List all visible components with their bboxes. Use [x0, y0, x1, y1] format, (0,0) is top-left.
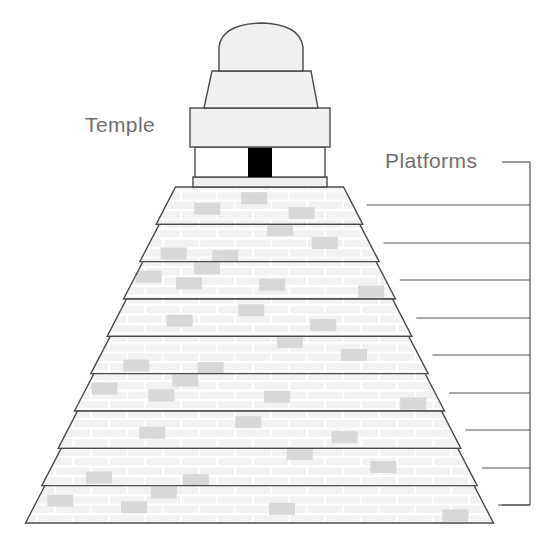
accent-brick	[277, 336, 303, 348]
accent-brick	[341, 349, 367, 361]
accent-brick	[312, 237, 338, 249]
temple-doorway	[248, 148, 272, 177]
platform-step	[107, 299, 412, 336]
platform-group	[26, 187, 494, 523]
accent-brick	[176, 277, 202, 289]
accent-brick	[332, 431, 358, 443]
accent-brick	[442, 510, 468, 522]
accent-brick	[198, 362, 224, 374]
accent-brick	[358, 286, 384, 298]
accent-brick	[267, 224, 293, 236]
accent-brick	[269, 503, 295, 515]
accent-brick	[264, 391, 290, 403]
accent-brick	[148, 389, 174, 401]
platform-step	[26, 486, 494, 523]
accent-brick	[289, 207, 315, 219]
accent-brick	[212, 250, 238, 262]
platform-step	[124, 262, 396, 299]
platform-step	[140, 224, 379, 262]
temple-label: Temple	[85, 113, 155, 136]
platform-step	[91, 336, 428, 374]
accent-brick	[235, 416, 261, 428]
platform-step	[75, 374, 445, 411]
accent-brick	[241, 192, 267, 204]
accent-brick	[400, 398, 426, 410]
platform-step	[156, 187, 363, 224]
accent-brick	[194, 203, 220, 215]
accent-brick	[161, 248, 187, 260]
temple-base-slab	[193, 177, 327, 187]
accent-brick	[238, 304, 264, 316]
diagram-canvas: Temple Platforms	[0, 0, 555, 545]
accent-brick	[259, 279, 285, 291]
accent-brick	[86, 472, 112, 484]
accent-brick	[47, 495, 73, 507]
accent-brick	[167, 315, 193, 327]
accent-brick	[310, 319, 336, 331]
accent-brick	[370, 461, 396, 473]
temple-group	[190, 23, 330, 187]
accent-brick	[121, 501, 147, 513]
temple-main-band	[190, 108, 330, 147]
pyramid-temple-diagram: Temple Platforms	[0, 0, 555, 545]
accent-brick	[151, 486, 177, 498]
platforms-label: Platforms	[385, 149, 477, 172]
platform-step	[42, 448, 477, 486]
accent-brick	[123, 360, 149, 372]
accent-brick	[136, 271, 162, 283]
accent-brick	[287, 448, 313, 460]
accent-brick	[172, 374, 198, 386]
accent-brick	[183, 474, 209, 486]
platform-step	[58, 411, 461, 448]
temple-upper-tier	[204, 71, 318, 108]
accent-brick	[92, 383, 118, 395]
accent-brick	[139, 427, 165, 439]
platform-brick-fill	[26, 486, 494, 523]
platform-brick-fill	[75, 374, 445, 411]
accent-brick	[194, 262, 220, 274]
temple-dome-roof	[219, 23, 303, 71]
